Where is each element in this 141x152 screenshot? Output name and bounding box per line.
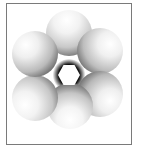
sphere-upper-left xyxy=(12,31,58,77)
sphere-upper-right xyxy=(77,28,123,74)
sphere-lower-left xyxy=(12,75,58,121)
